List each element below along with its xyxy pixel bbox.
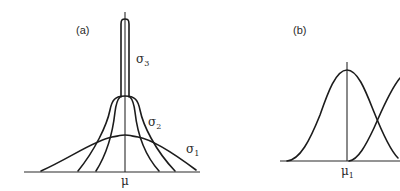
panel-b xyxy=(280,62,400,161)
mu-subscript: 1 xyxy=(349,171,354,180)
mu-symbol: μ xyxy=(341,164,349,178)
panel-a-mu-label: μ xyxy=(121,175,129,187)
sigma-2-symbol: σ xyxy=(148,115,156,129)
panel-a-label: (a) xyxy=(76,25,89,36)
sigma-3-symbol: σ xyxy=(136,52,144,66)
sigma-3-label: σ3 xyxy=(136,53,149,68)
panel-b-mu1-label: μ1 xyxy=(341,165,354,180)
curve-sigma-1 xyxy=(41,135,196,171)
sigma-1-label: σ1 xyxy=(186,143,199,158)
sigma-1-subscript: 1 xyxy=(194,149,199,158)
sigma-3-subscript: 3 xyxy=(144,59,149,68)
panel-a xyxy=(24,12,200,172)
sigma-2-label: σ2 xyxy=(148,116,161,131)
panel-b-label: (b) xyxy=(293,25,306,36)
curve-sigma-2 xyxy=(78,96,175,171)
figure-canvas xyxy=(0,0,400,191)
sigma-2-subscript: 2 xyxy=(156,122,161,131)
curve-mu1 xyxy=(287,70,398,161)
curve-mu2 xyxy=(349,78,400,161)
sigma-1-symbol: σ xyxy=(186,142,194,156)
